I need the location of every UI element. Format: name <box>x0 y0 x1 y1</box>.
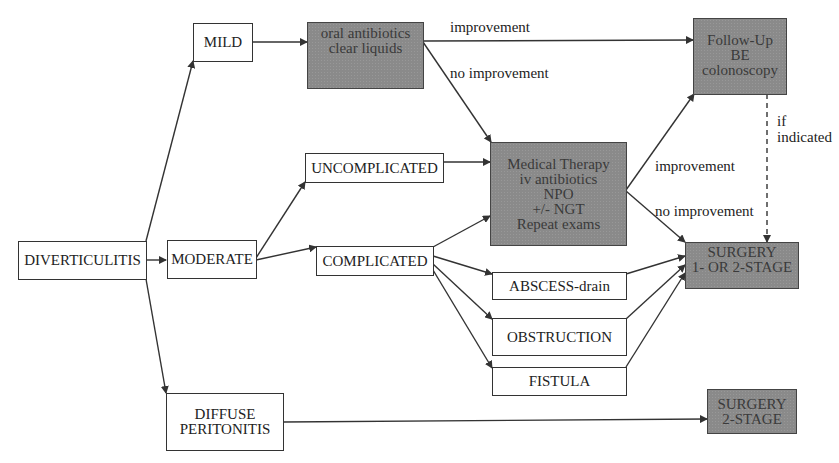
node-label: OBSTRUCTION <box>507 330 612 345</box>
edge-fistula-surgery <box>626 273 685 367</box>
edge-moderate-uncomplicated <box>256 182 305 258</box>
node-diverticulitis: DIVERTICULITIS <box>18 241 147 280</box>
node-label: UNCOMPLICATED <box>311 161 438 176</box>
node-fistula: FISTULA <box>492 367 627 396</box>
node-label: FISTULA <box>529 374 591 389</box>
node-label: MILD <box>204 35 242 50</box>
node-label: Medical Therapy iv antibiotics NPO +/- N… <box>507 157 610 232</box>
node-uncomplicated: UNCOMPLICATED <box>305 153 444 183</box>
node-label: ABSCESS-drain <box>509 279 610 294</box>
node-medical-therapy: Medical Therapy iv antibiotics NPO +/- N… <box>490 142 627 246</box>
node-follow-up: Follow-Up BE colonoscopy <box>693 18 787 95</box>
edge-medical-followup <box>626 94 694 190</box>
edge-complicated-obstruction <box>433 264 492 319</box>
label-oral-no-improvement: no improvement <box>450 65 549 81</box>
edge-diverticulitis-mild <box>146 61 193 241</box>
node-label: Follow-Up BE colonoscopy <box>702 33 778 78</box>
node-label: oral antibiotics clear liquids <box>321 26 411 56</box>
node-obstruction: OBSTRUCTION <box>492 318 627 356</box>
node-label: DIVERTICULITIS <box>24 253 141 268</box>
node-label: SURGERY 2-STAGE <box>717 397 786 427</box>
node-moderate: MODERATE <box>167 240 257 279</box>
node-label: MODERATE <box>171 252 253 267</box>
edge-complicated-medical <box>433 216 490 247</box>
node-label: COMPLICATED <box>322 254 427 269</box>
edge-complicated-fistula <box>433 270 492 368</box>
label-medical-improvement: improvement <box>655 158 735 174</box>
edge-obstruction-surgery <box>626 265 685 319</box>
node-surgery-2-stage: SURGERY 2-STAGE <box>707 389 797 434</box>
node-abscess-drain: ABSCESS-drain <box>492 272 627 300</box>
edge-abscess-surgery <box>626 256 685 274</box>
node-diffuse-peritonitis: DIFFUSE PERITONITIS <box>166 393 284 451</box>
label-if-indicated: if indicated <box>777 113 832 145</box>
edge-moderate-complicated <box>256 247 316 260</box>
node-complicated: COMPLICATED <box>316 246 434 276</box>
edge-peritonitis-surgery2 <box>283 419 707 422</box>
edge-oral-followup <box>423 40 693 41</box>
label-oral-improvement: improvement <box>450 19 530 35</box>
node-mild: MILD <box>193 23 253 62</box>
edge-diverticulitis-peritonitis <box>146 279 166 393</box>
label-medical-no-improvement: no improvement <box>655 203 754 219</box>
node-label: SURGERY 1- OR 2-STAGE <box>692 245 792 275</box>
node-label: DIFFUSE PERITONITIS <box>180 407 271 437</box>
edge-oral-medical <box>423 42 491 142</box>
node-surgery-1-or-2-stage: SURGERY 1- OR 2-STAGE <box>685 242 799 289</box>
node-oral-antibiotics: oral antibiotics clear liquids <box>307 22 424 89</box>
